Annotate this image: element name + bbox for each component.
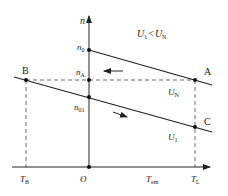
u1-characteristic-line [14, 77, 212, 132]
condition-label: U1<UN [137, 28, 167, 40]
label-c: C [204, 116, 211, 127]
point-c [193, 125, 197, 129]
x-axis-label: Tem [146, 174, 159, 185]
tick-tb: TB [20, 174, 29, 185]
arrow-down-right-icon [113, 112, 127, 117]
point-n01 [87, 95, 91, 99]
curve-label-un: UN [168, 87, 180, 98]
curve-label-u1: U1 [168, 132, 178, 143]
tick-n01: n01 [74, 102, 85, 113]
point-na [87, 78, 91, 82]
point-b [24, 78, 28, 82]
speed-torque-diagram: n U1<UN n0 nA n01 A B C UN U1 TB O Tem T… [0, 0, 228, 196]
tick-n0: n0 [77, 42, 85, 53]
label-a: A [204, 66, 212, 77]
y-axis-label: n [80, 15, 85, 26]
point-a [193, 78, 197, 82]
tick-na: nA [76, 67, 86, 78]
tick-tl: TL [191, 174, 200, 185]
point-n0 [87, 48, 91, 52]
label-b: B [22, 65, 29, 76]
origin-label: O [80, 174, 87, 184]
point-origin [87, 165, 91, 169]
